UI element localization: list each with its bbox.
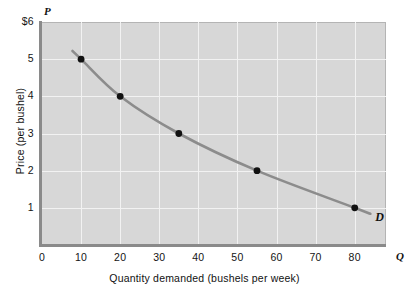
x-axis-title: Quantity demanded (bushels per week) <box>0 272 409 284</box>
x-tick-label: 10 <box>66 251 96 263</box>
gridline-horizontal <box>42 208 386 209</box>
x-axis-variable-label: Q <box>396 250 404 262</box>
gridline-horizontal <box>42 96 386 97</box>
x-tick-label: 30 <box>144 251 174 263</box>
demand-curve-label: D <box>375 210 384 225</box>
gridline-horizontal <box>42 171 386 172</box>
demand-curve-figure: 01020304050607080 $654321 P Q Quantity d… <box>0 0 409 296</box>
gridline-horizontal <box>42 134 386 135</box>
y-axis-title: Price (per bushel) <box>14 56 26 206</box>
plot-frame-top <box>42 22 386 23</box>
x-axis-line <box>39 244 386 247</box>
y-axis-variable-label: P <box>44 5 51 17</box>
x-tick-label: 40 <box>183 251 213 263</box>
x-tick-label: 20 <box>105 251 135 263</box>
x-tick-label: 80 <box>340 251 370 263</box>
x-tick-label: 70 <box>301 251 331 263</box>
y-axis-line <box>39 21 42 247</box>
x-tick-label: 0 <box>27 251 57 263</box>
y-tick-label: $6 <box>8 15 34 27</box>
x-tick-label: 50 <box>222 251 252 263</box>
gridline-horizontal <box>42 59 386 60</box>
x-tick-label: 60 <box>262 251 292 263</box>
